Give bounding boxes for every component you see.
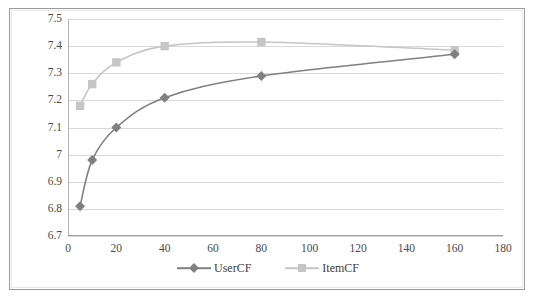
y-axis-tick-label: 7.2 <box>48 95 62 107</box>
y-axis-tick-label: 6.8 <box>48 203 62 215</box>
x-axis-tick-label: 20 <box>111 243 123 255</box>
chart-legend: UserCF ItemCF <box>10 262 526 274</box>
legend-label-itemcf: ItemCF <box>322 262 359 274</box>
figure-frame: 6.76.86.977.17.27.37.47.5 02040608010012… <box>9 8 525 290</box>
y-axis-tick-label: 7.4 <box>48 40 62 52</box>
legend-entry-itemcf: ItemCF <box>285 262 359 274</box>
legend-marker-diamond-icon <box>177 262 211 274</box>
data-point-marker <box>160 93 170 103</box>
x-axis-tick-label: 80 <box>256 243 268 255</box>
legend-label-usercf: UserCF <box>214 262 251 274</box>
x-axis-tick-label: 120 <box>349 243 366 255</box>
data-point-marker <box>160 42 168 50</box>
data-point-marker <box>112 58 120 66</box>
y-axis-tick-label: 7 <box>56 149 62 161</box>
y-axis-tick-label: 7.3 <box>48 68 62 80</box>
x-axis-tick-label: 180 <box>494 243 511 255</box>
y-axis-tick-label: 7.5 <box>48 13 62 25</box>
data-point-marker <box>257 38 265 46</box>
data-point-marker <box>76 102 84 110</box>
series-line-itemcf <box>80 42 455 106</box>
data-point-marker <box>75 201 85 211</box>
data-point-marker <box>256 71 266 81</box>
x-axis-tick-label: 160 <box>446 243 463 255</box>
x-axis-tick-label: 0 <box>65 243 71 255</box>
data-point-marker <box>87 155 97 165</box>
legend-entry-usercf: UserCF <box>177 262 251 274</box>
x-axis-tick-label: 100 <box>301 243 318 255</box>
series-line-usercf <box>80 54 455 206</box>
legend-marker-square-icon <box>285 262 319 274</box>
y-axis-tick-label: 6.9 <box>48 176 62 188</box>
x-axis-tick-label: 60 <box>207 243 219 255</box>
data-point-marker <box>88 80 96 88</box>
x-axis-tick-label: 140 <box>398 243 415 255</box>
plot-area: 6.76.86.977.17.27.37.47.5 02040608010012… <box>68 19 503 236</box>
y-axis-tick-label: 6.7 <box>48 230 62 242</box>
x-axis-tick-label: 40 <box>159 243 171 255</box>
line-chart: 6.76.86.977.17.27.37.47.5 02040608010012… <box>10 9 526 291</box>
series-plot <box>68 19 503 236</box>
gridline <box>68 236 503 237</box>
y-axis-tick-label: 7.1 <box>48 122 62 134</box>
